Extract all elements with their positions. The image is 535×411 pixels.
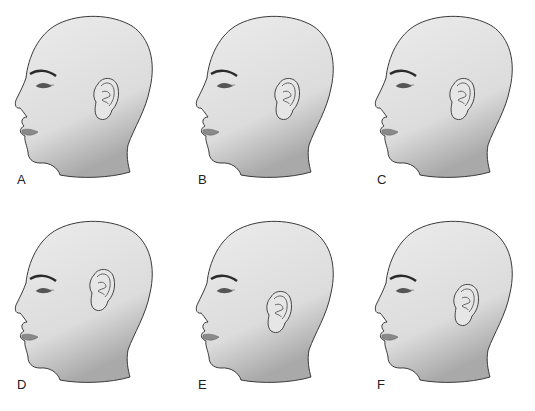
head-panel-e: E: [181, 205, 359, 405]
head-profile-illustration: [0, 0, 178, 200]
panel-label: E: [198, 377, 207, 392]
head-profile-illustration: [0, 205, 178, 405]
panel-label: A: [17, 172, 26, 187]
head-profile-illustration: [181, 205, 359, 405]
head-outline: [15, 221, 152, 382]
head-panel-f: F: [360, 205, 535, 405]
head-outline: [375, 221, 512, 382]
head-outline: [15, 16, 152, 177]
panel-label: C: [377, 172, 386, 187]
head-outline: [196, 16, 333, 177]
head-panel-c: C: [360, 0, 535, 200]
panel-label: D: [17, 377, 26, 392]
head-panel-b: B: [181, 0, 359, 200]
head-outline: [375, 16, 512, 177]
panel-label: B: [198, 172, 207, 187]
panel-label: F: [377, 377, 385, 392]
head-panel-a: A: [0, 0, 178, 200]
head-outline: [196, 221, 333, 382]
head-panel-d: D: [0, 205, 178, 405]
head-profile-illustration: [360, 205, 535, 405]
head-profile-illustration: [181, 0, 359, 200]
head-profile-illustration: [360, 0, 535, 200]
